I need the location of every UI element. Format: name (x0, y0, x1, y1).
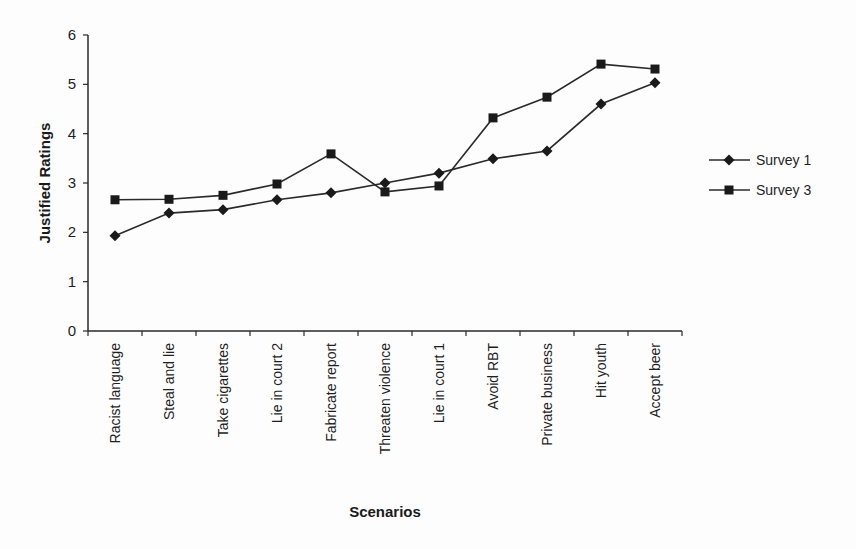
x-category-label: Lie in court 1 (431, 343, 447, 423)
square-marker (219, 191, 228, 200)
square-marker (489, 113, 498, 122)
square-marker (111, 195, 120, 204)
legend-item: Survey 3 (709, 182, 811, 198)
y-axis: 0123456 (68, 26, 88, 339)
y-tick-label: 5 (68, 75, 76, 92)
square-marker (327, 149, 336, 158)
square-marker (273, 179, 282, 188)
square-marker (651, 65, 660, 74)
diamond-marker (218, 204, 229, 215)
square-marker (435, 181, 444, 190)
diamond-marker (326, 187, 337, 198)
diamond-marker (110, 230, 121, 241)
x-category-label: Steal and lie (161, 343, 177, 420)
x-category-label: Private business (539, 343, 555, 446)
x-category-label: Take cigarettes (215, 343, 231, 437)
line-chart: 0123456 Racist languageSteal and lieTake… (0, 0, 856, 549)
y-tick-label: 1 (68, 273, 76, 290)
legend: Survey 1Survey 3 (709, 152, 811, 198)
square-marker (597, 60, 606, 69)
x-category-label: Hit youth (593, 343, 609, 398)
square-marker (725, 186, 734, 195)
series-survey-1 (110, 77, 661, 241)
y-tick-label: 2 (68, 223, 76, 240)
diamond-marker (650, 77, 661, 88)
series-group (110, 60, 661, 242)
diamond-marker (488, 153, 499, 164)
x-category-label: Accept beer (647, 343, 663, 418)
y-tick-label: 4 (68, 125, 76, 142)
series-line (115, 83, 655, 236)
square-marker (381, 187, 390, 196)
diamond-marker (272, 194, 283, 205)
y-tick-label: 6 (68, 26, 76, 43)
legend-item: Survey 1 (709, 152, 811, 168)
diamond-marker (434, 168, 445, 179)
x-category-label: Avoid RBT (485, 343, 501, 410)
x-category-label: Lie in court 2 (269, 343, 285, 423)
x-category-label: Threaten violence (377, 343, 393, 455)
legend-label: Survey 3 (756, 182, 811, 198)
y-tick-label: 3 (68, 174, 76, 191)
y-tick-label: 0 (68, 322, 76, 339)
x-axis: Racist languageSteal and lieTake cigaret… (88, 331, 682, 454)
square-marker (165, 195, 174, 204)
diamond-marker (164, 208, 175, 219)
y-axis-title: Justified Ratings (36, 123, 53, 244)
x-category-label: Racist language (107, 343, 123, 444)
diamond-marker (724, 155, 735, 166)
x-axis-title: Scenarios (349, 503, 421, 520)
diamond-marker (380, 178, 391, 189)
x-category-label: Fabricate report (323, 343, 339, 442)
square-marker (543, 93, 552, 102)
legend-label: Survey 1 (756, 152, 811, 168)
